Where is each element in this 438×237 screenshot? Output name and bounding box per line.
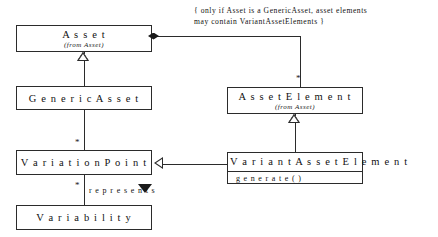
class-name-generic-asset: G e n e r i c A s s e t	[19, 92, 149, 105]
class-box-variant-asset-element[interactable]: V a r i a n t A s s e t E l e m e n t g …	[227, 152, 363, 184]
generalization-arrow-asset-inner	[79, 54, 87, 60]
generalization-arrow-variation-point-inner	[156, 159, 162, 167]
class-name-asset-element: A s s e t E l e m e n t	[230, 90, 360, 103]
association-line-variation-point-variability	[84, 175, 85, 205]
constraint-note: { only if Asset is a GenericAsset, asset…	[194, 6, 438, 27]
class-name-variability: V a r i a b i l i t y	[19, 211, 149, 224]
class-operation-generate: g e n e r a t e ( )	[228, 171, 362, 185]
multiplicity-asset-element: *	[296, 74, 301, 83]
class-box-generic-asset[interactable]: G e n e r i c A s s e t	[16, 86, 152, 110]
generalization-arrow-asset-element-inner	[290, 116, 298, 122]
class-name-variation-point: V a r i a t i o n P o i n t	[19, 156, 149, 169]
class-package-asset: (from Asset)	[19, 41, 149, 50]
association-line-generic-asset-variation-point	[84, 110, 85, 150]
association-label-represents: r e p r e s e n t s	[89, 186, 156, 195]
multiplicity-variation-point-top: *	[75, 138, 80, 147]
generalization-line-variation-point	[163, 164, 227, 165]
class-box-asset-element[interactable]: A s s e t E l e m e n t (from Asset)	[227, 87, 363, 114]
class-name-asset: A s s e t	[19, 28, 149, 41]
multiplicity-variation-point-bottom: *	[75, 181, 80, 190]
class-box-variability[interactable]: V a r i a b i l i t y	[16, 205, 152, 230]
class-package-asset-element: (from Asset)	[230, 103, 360, 112]
uml-diagram-canvas: { only if Asset is a GenericAsset, asset…	[0, 0, 438, 237]
composition-line-horizontal	[152, 36, 301, 37]
class-box-variation-point[interactable]: V a r i a t i o n P o i n t	[16, 150, 152, 175]
class-box-asset[interactable]: A s s e t (from Asset)	[16, 25, 152, 52]
class-name-variant-asset-element: V a r i a n t A s s e t E l e m e n t	[230, 155, 360, 168]
